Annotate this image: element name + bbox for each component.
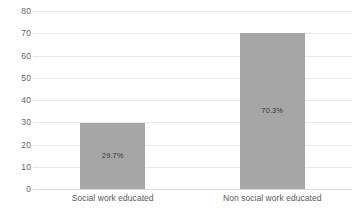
- bar: 29.7%: [80, 123, 145, 189]
- y-axis-tick-label: 20: [3, 140, 31, 149]
- x-axis-category-label: Non social work educated: [193, 194, 353, 203]
- y-axis-tick-label: 0: [3, 185, 31, 194]
- bar: 70.3%: [240, 33, 305, 189]
- bar-data-label: 70.3%: [240, 107, 305, 115]
- y-axis-tick-label: 50: [3, 74, 31, 83]
- axis-baseline: [33, 189, 352, 190]
- y-axis-tick-label: 80: [3, 7, 31, 16]
- y-axis-tick-label: 10: [3, 163, 31, 172]
- gridline: [33, 11, 352, 12]
- y-axis-tick-label: 40: [3, 96, 31, 105]
- y-axis-tick-label: 60: [3, 51, 31, 60]
- bar-data-label: 29.7%: [80, 152, 145, 160]
- y-axis: 80706050403020100: [0, 11, 31, 189]
- y-axis-tick-label: 70: [3, 29, 31, 38]
- y-axis-tick-label: 30: [3, 118, 31, 127]
- plot-area: 29.7%70.3%: [33, 11, 352, 189]
- x-axis-category-label: Social work educated: [33, 194, 193, 203]
- bar-chart: 80706050403020100 29.7%70.3% Social work…: [0, 0, 364, 218]
